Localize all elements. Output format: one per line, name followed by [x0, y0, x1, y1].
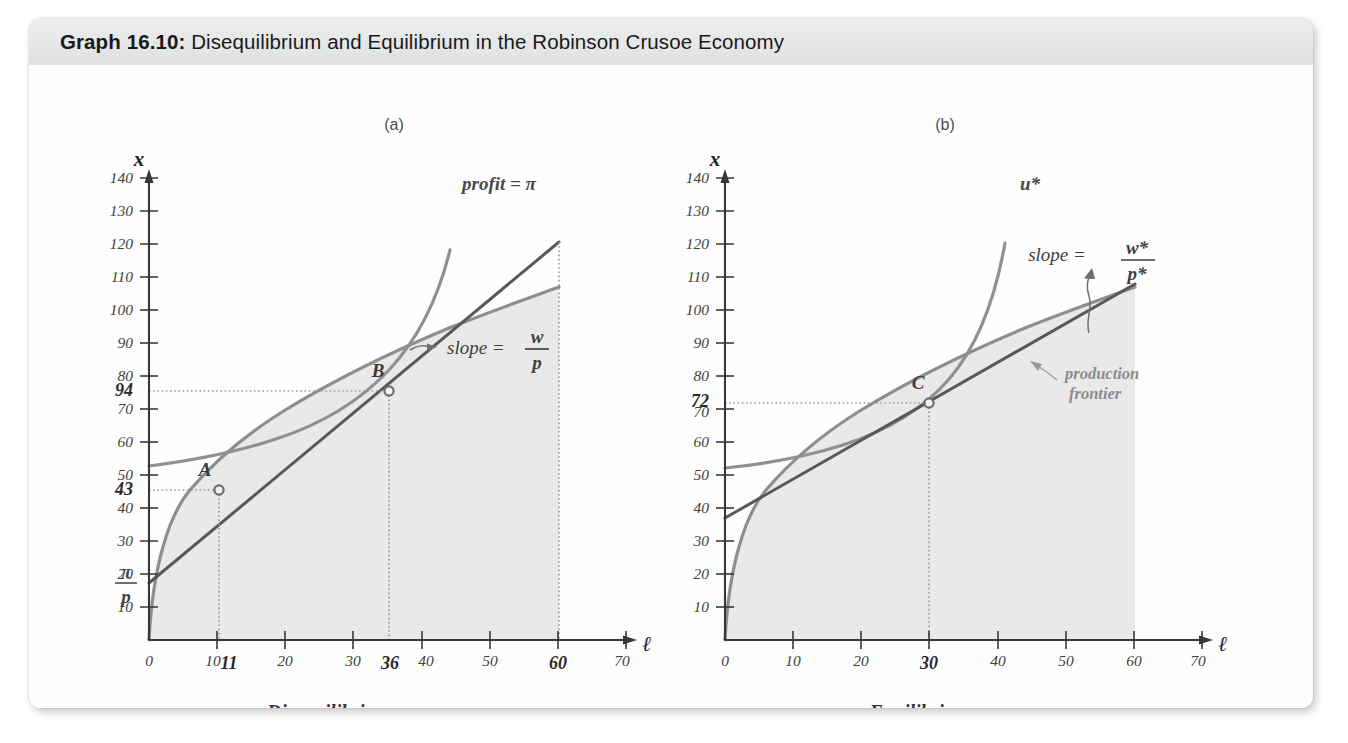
svg-text:60: 60 — [694, 433, 710, 450]
svg-text:110: 110 — [111, 268, 133, 285]
svg-text:100: 100 — [686, 301, 710, 318]
svg-text:0: 0 — [145, 652, 153, 669]
panel-b-caption: Equilibrium — [868, 701, 970, 708]
svg-text:140: 140 — [110, 169, 134, 186]
panel-a-profit-label: profit = π — [460, 173, 537, 194]
panel-a-caption: Disequilibrium — [266, 701, 391, 708]
svg-text:20: 20 — [277, 652, 293, 669]
panel-b-utility-label: u* — [1020, 173, 1041, 194]
panel-b-x-axis-arrow — [1199, 636, 1213, 645]
panel-b-frontier-label-line1: production — [1063, 364, 1139, 383]
plot-area: (a) x ℓ — [29, 65, 1313, 708]
svg-text:40: 40 — [118, 499, 134, 516]
panel-b-production-set — [725, 287, 1135, 640]
svg-text:10: 10 — [785, 652, 801, 669]
svg-text:0: 0 — [721, 652, 729, 669]
svg-text:60: 60 — [1126, 652, 1142, 669]
panel-b-point-c-label: C — [912, 372, 925, 393]
panel-a-x-highlight-36: 36 — [380, 653, 399, 673]
panel-b-y-axis-label: x — [709, 147, 721, 171]
panel-a-y-axis-arrow — [145, 169, 154, 183]
panel-a-y-highlight-43: 43 — [114, 479, 133, 499]
panel-a-letter: (a) — [384, 116, 404, 133]
figure-number: Graph 16.10: — [60, 30, 185, 53]
svg-text:70: 70 — [614, 652, 630, 669]
panel-a-point-a-marker[interactable] — [214, 485, 223, 494]
svg-text:40: 40 — [990, 652, 1006, 669]
panel-a-point-a-label: A — [198, 459, 212, 480]
panel-b-y-highlight-72: 72 — [691, 391, 709, 411]
panel-a-y-axis-label: x — [133, 147, 145, 171]
panel-b-x-axis-label: ℓ — [1219, 632, 1228, 656]
svg-text:20: 20 — [853, 652, 869, 669]
svg-text:50: 50 — [1058, 652, 1074, 669]
svg-text:130: 130 — [110, 202, 134, 219]
svg-text:100: 100 — [110, 301, 134, 318]
svg-text:10: 10 — [694, 598, 710, 615]
panel-b-slope-numerator: w* — [1126, 237, 1149, 258]
panel-b-point-c-marker[interactable] — [924, 398, 933, 407]
svg-text:90: 90 — [118, 334, 134, 351]
panel-b-slope-denominator: p* — [1126, 263, 1148, 284]
panel-a-slope-text: slope = — [447, 337, 505, 358]
svg-text:30: 30 — [117, 532, 134, 549]
panel-b-frontier-label-line2: frontier — [1069, 384, 1122, 403]
panel-b-equilibrium: (b) x ℓ 10 20 — [665, 65, 1313, 708]
figure-title-text: Disequilibrium and Equilibrium in the Ro… — [185, 30, 784, 53]
figure-title: Graph 16.10: Disequilibrium and Equilibr… — [60, 30, 784, 54]
svg-text:60: 60 — [118, 433, 134, 450]
panel-a-disequilibrium: (a) x ℓ — [29, 65, 677, 708]
svg-text:140: 140 — [686, 169, 710, 186]
svg-text:130: 130 — [686, 202, 710, 219]
panel-a-slope-denominator: p — [530, 352, 542, 373]
svg-text:20: 20 — [694, 565, 710, 582]
svg-text:90: 90 — [694, 334, 710, 351]
panel-a-slope-numerator: w — [531, 326, 544, 347]
svg-text:120: 120 — [686, 235, 710, 252]
svg-text:30: 30 — [693, 532, 710, 549]
panel-b-x-highlight-30: 30 — [919, 653, 938, 673]
svg-text:80: 80 — [694, 367, 710, 384]
panel-b-y-axis-arrow — [721, 169, 730, 183]
figure-card: Graph 16.10: Disequilibrium and Equilibr… — [29, 18, 1313, 708]
panel-a-point-b-label: B — [371, 360, 385, 381]
svg-text:110: 110 — [687, 268, 709, 285]
svg-text:120: 120 — [110, 235, 134, 252]
svg-text:70: 70 — [118, 400, 134, 417]
panel-a-y-highlight-94: 94 — [115, 380, 133, 400]
panel-a-point-b-marker[interactable] — [384, 386, 393, 395]
panel-a-x-axis-label: ℓ — [643, 632, 652, 656]
panel-a-x-highlight-60: 60 — [549, 653, 567, 673]
svg-text:50: 50 — [694, 466, 710, 483]
panel-b-letter: (b) — [935, 116, 955, 133]
svg-text:30: 30 — [344, 652, 361, 669]
panel-a-x-axis-arrow — [623, 636, 637, 645]
panel-b-slope-text: slope = — [1028, 244, 1086, 265]
svg-text:70: 70 — [1190, 652, 1206, 669]
panel-b-slope-arrowhead — [1084, 268, 1095, 279]
svg-text:40: 40 — [418, 652, 434, 669]
svg-text:10: 10 — [205, 652, 221, 669]
svg-text:50: 50 — [482, 652, 498, 669]
panel-a-intercept-denominator: p — [119, 586, 131, 607]
panel-a-intercept-numerator: π — [121, 561, 131, 582]
panel-a-x-highlight-11: 11 — [220, 653, 237, 673]
svg-text:40: 40 — [694, 499, 710, 516]
